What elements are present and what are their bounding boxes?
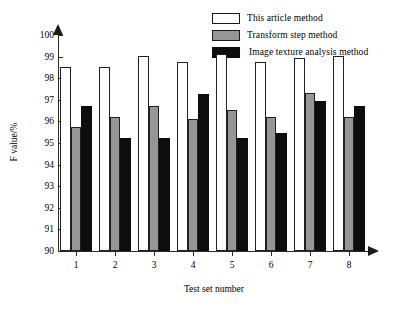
bar bbox=[120, 138, 131, 251]
bar bbox=[344, 117, 355, 251]
x-axis-title: Test set number bbox=[58, 284, 370, 294]
bar bbox=[71, 127, 82, 251]
bar bbox=[138, 56, 149, 251]
white-swatch-icon bbox=[212, 13, 240, 24]
bar-group bbox=[214, 55, 253, 251]
y-axis-tick-label: 95 bbox=[30, 139, 54, 149]
bar bbox=[110, 117, 121, 251]
bar bbox=[216, 54, 227, 251]
bar bbox=[266, 117, 277, 251]
chart-legend: This article method Transform step metho… bbox=[212, 12, 368, 58]
y-axis-tick-label: 93 bbox=[30, 182, 54, 192]
bar bbox=[159, 138, 170, 251]
bar bbox=[255, 62, 266, 251]
x-axis-tick-label: 5 bbox=[222, 260, 242, 270]
y-axis-tick-label: 92 bbox=[30, 203, 54, 213]
x-axis-tick bbox=[310, 252, 311, 256]
x-axis-tick bbox=[349, 252, 350, 256]
bar bbox=[237, 138, 248, 251]
x-axis-tick bbox=[193, 252, 194, 256]
bar-chart: This article method Transform step metho… bbox=[0, 0, 398, 319]
y-axis-tick-label: 91 bbox=[30, 225, 54, 235]
y-axis-tick bbox=[58, 251, 63, 252]
x-axis-tick bbox=[271, 252, 272, 256]
bar bbox=[60, 67, 71, 251]
y-axis-tick-label: 98 bbox=[30, 74, 54, 84]
x-axis-tick bbox=[154, 252, 155, 256]
x-axis-tick-label: 3 bbox=[144, 260, 164, 270]
legend-label: This article method bbox=[247, 13, 323, 24]
bar bbox=[177, 62, 188, 251]
bar bbox=[81, 106, 92, 251]
bar-group bbox=[58, 55, 97, 251]
y-axis-tick-label: 97 bbox=[30, 95, 54, 105]
bar-group bbox=[253, 55, 292, 251]
x-axis-tick bbox=[76, 252, 77, 256]
bar-group bbox=[97, 55, 136, 251]
bar bbox=[276, 133, 287, 251]
x-axis-tick-label: 2 bbox=[105, 260, 125, 270]
bar bbox=[354, 106, 365, 251]
bar bbox=[333, 56, 344, 251]
plot-area bbox=[58, 55, 370, 251]
bar-group bbox=[175, 55, 214, 251]
bar bbox=[99, 67, 110, 251]
y-axis-tick bbox=[58, 35, 63, 36]
x-axis-tick bbox=[232, 252, 233, 256]
x-axis-tick-label: 4 bbox=[183, 260, 203, 270]
gray-swatch-icon bbox=[212, 30, 240, 41]
bar-group bbox=[292, 55, 331, 251]
legend-label: Transform step method bbox=[247, 30, 337, 41]
legend-item-transform-step-method: Transform step method bbox=[212, 29, 368, 41]
y-axis-title: F value/% bbox=[9, 107, 19, 177]
bar-group bbox=[331, 55, 370, 251]
bar bbox=[227, 110, 238, 251]
y-axis-arrow-icon bbox=[53, 24, 63, 35]
bar-group bbox=[136, 55, 175, 251]
legend-item-this-article-method: This article method bbox=[212, 12, 368, 24]
y-axis-tick-label: 90 bbox=[30, 247, 54, 257]
x-axis-tick bbox=[115, 252, 116, 256]
x-axis-tick-label: 6 bbox=[261, 260, 281, 270]
bar bbox=[188, 119, 199, 251]
x-axis-tick-label: 7 bbox=[300, 260, 320, 270]
y-axis-tick-label: 96 bbox=[30, 117, 54, 127]
y-axis-tick-label: 94 bbox=[30, 160, 54, 170]
y-axis-tick-label: 99 bbox=[30, 52, 54, 62]
bar bbox=[315, 101, 326, 251]
bar bbox=[305, 93, 316, 251]
bar bbox=[198, 94, 209, 251]
x-axis-tick-label: 8 bbox=[339, 260, 359, 270]
bar bbox=[149, 106, 160, 251]
bar bbox=[294, 58, 305, 251]
y-axis-tick-label: 100 bbox=[30, 31, 54, 41]
x-axis-tick-label: 1 bbox=[66, 260, 86, 270]
